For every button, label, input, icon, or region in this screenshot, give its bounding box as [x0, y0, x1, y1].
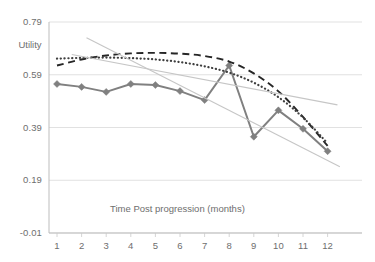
x-tick-label: 8 — [218, 240, 240, 251]
x-tick-label: 12 — [317, 240, 339, 251]
y-axis-title: Utility — [8, 39, 52, 50]
x-tick-label: 3 — [95, 240, 117, 251]
data-point-marker — [54, 80, 61, 87]
chart-plot-area — [0, 0, 375, 262]
data-point-marker — [152, 82, 159, 89]
x-axis-title: Time Post progression (months) — [110, 203, 245, 214]
data-series-layer — [54, 38, 340, 167]
y-tick-label: 0.19 — [2, 174, 42, 185]
y-tick-label: -0.01 — [2, 227, 42, 238]
y-tick-label: 0.59 — [2, 69, 42, 80]
x-tick-label: 4 — [120, 240, 142, 251]
y-tick-label: 0.39 — [2, 122, 42, 133]
x-tick-marks — [57, 233, 328, 237]
gridlines — [49, 22, 362, 233]
observed-line — [57, 66, 328, 152]
data-point-marker — [103, 88, 110, 95]
series-dashed-fit — [57, 53, 328, 146]
series-linear-trend-steep — [87, 38, 340, 167]
trend-line — [87, 38, 340, 167]
dashed-curve — [57, 53, 328, 146]
x-tick-label: 5 — [144, 240, 166, 251]
utility-line-chart: 0.790.590.390.19-0.01 123456789101112 Ut… — [0, 0, 375, 262]
x-tick-label: 1 — [46, 240, 68, 251]
x-tick-label: 10 — [267, 240, 289, 251]
x-tick-label: 7 — [194, 240, 216, 251]
y-tick-label: 0.79 — [2, 16, 42, 27]
data-point-marker — [177, 88, 184, 95]
x-tick-label: 9 — [243, 240, 265, 251]
data-point-marker — [78, 83, 85, 90]
x-tick-label: 6 — [169, 240, 191, 251]
x-tick-label: 11 — [292, 240, 314, 251]
data-point-marker — [127, 80, 134, 87]
x-tick-label: 2 — [71, 240, 93, 251]
